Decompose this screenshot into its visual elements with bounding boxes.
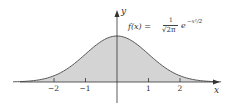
formula-exponent: −x²/2 <box>187 18 202 24</box>
x-tick-label: 2 <box>178 84 183 93</box>
x-tick-label: 1 <box>146 84 151 93</box>
x-axis-label: x <box>214 85 219 95</box>
x-tick-label: −2 <box>48 84 59 93</box>
normal-distribution-chart <box>0 0 229 108</box>
formula-numerator: 1 <box>169 16 173 23</box>
x-tick-label: −1 <box>80 84 91 93</box>
formula-denominator: √2π <box>162 26 176 34</box>
formula-exp-base: e <box>181 21 186 30</box>
formula-lhs: f(x) = <box>128 22 151 31</box>
x-axis-arrow-icon <box>213 80 220 85</box>
y-axis-label: y <box>121 6 126 16</box>
y-axis-arrow-icon <box>115 10 120 17</box>
